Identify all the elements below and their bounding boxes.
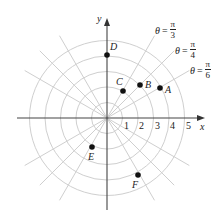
fraction: π 4: [190, 40, 197, 60]
y-axis-arrow-icon: [104, 18, 110, 26]
x-tick-2: 2: [139, 121, 144, 131]
polar-diagram: x y 1 2 3 4 5 A B C D E F θ = π 3 θ = π …: [0, 0, 224, 220]
point-d: [104, 52, 110, 58]
x-axis-label: x: [200, 122, 204, 132]
point-b-label: B: [145, 80, 151, 90]
point-f-label: F: [132, 180, 138, 190]
equals-sign: =: [197, 65, 203, 76]
point-c-label: C: [116, 77, 123, 87]
point-e-label: E: [88, 152, 94, 162]
ray-label-pi-4: θ = π 4: [175, 40, 196, 60]
point-a: [157, 85, 163, 91]
points: [89, 52, 163, 178]
theta-symbol: θ: [175, 45, 180, 56]
ray-label-pi-6: θ = π 6: [190, 60, 211, 80]
equals-sign: =: [162, 25, 168, 36]
y-axis-label: y: [97, 14, 101, 24]
point-c: [120, 88, 126, 94]
x-tick-3: 3: [155, 121, 160, 131]
x-tick-1: 1: [124, 121, 129, 131]
point-d-label: D: [110, 42, 117, 52]
theta-symbol: θ: [155, 25, 160, 36]
point-e: [89, 144, 95, 150]
point-b: [137, 82, 143, 88]
point-f: [135, 172, 141, 178]
polar-grid: [0, 0, 224, 220]
denominator: 4: [191, 50, 196, 60]
numerator: π: [190, 40, 197, 50]
denominator: 3: [171, 30, 176, 40]
fraction: π 6: [205, 60, 212, 80]
equals-sign: =: [182, 45, 188, 56]
x-tick-5: 5: [186, 121, 191, 131]
theta-symbol: θ: [190, 65, 195, 76]
numerator: π: [170, 20, 177, 30]
numerator: π: [205, 60, 212, 70]
denominator: 6: [206, 70, 211, 80]
x-tick-4: 4: [170, 121, 175, 131]
point-a-label: A: [165, 85, 171, 95]
fraction: π 3: [170, 20, 177, 40]
ray-label-pi-3: θ = π 3: [155, 20, 176, 40]
